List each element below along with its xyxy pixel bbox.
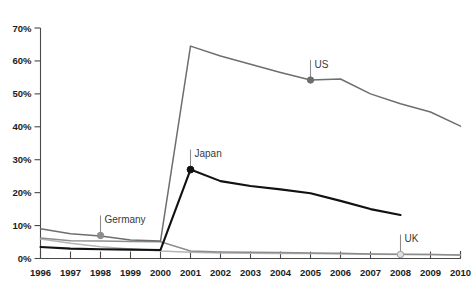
data-point-marker-uk[interactable] <box>397 251 403 257</box>
x-tick-label: 1996 <box>30 267 51 278</box>
y-axis-tick-labels: 0%10%20%30%40%50%60%70% <box>12 23 32 265</box>
y-axis: 0%10%20%30%40%50%60%70% <box>12 23 40 265</box>
x-tick-label: 1998 <box>90 267 111 278</box>
x-tick-label: 2005 <box>300 267 322 278</box>
y-tick-label: 70% <box>12 23 32 34</box>
series-annotations: USJapanGermanyUK <box>97 59 418 258</box>
data-point-marker-us[interactable] <box>307 77 313 83</box>
y-axis-ticks <box>35 28 41 259</box>
x-tick-label: 1999 <box>120 267 141 278</box>
data-point-marker-germany[interactable] <box>97 232 103 238</box>
line-chart: 0%10%20%30%40%50%60%70% 1996199719981999… <box>0 0 471 291</box>
y-tick-label: 20% <box>12 187 32 198</box>
x-tick-label: 2009 <box>420 267 441 278</box>
data-point-marker-japan[interactable] <box>187 166 194 173</box>
y-tick-label: 0% <box>18 253 32 264</box>
y-tick-label: 60% <box>12 55 32 66</box>
series-line-us <box>41 46 461 241</box>
x-tick-label: 2006 <box>330 267 351 278</box>
x-tick-label: 2008 <box>390 267 411 278</box>
series-label-us: US <box>315 59 329 70</box>
y-tick-label: 30% <box>12 154 32 165</box>
x-tick-label: 2010 <box>450 267 471 278</box>
y-tick-label: 10% <box>12 220 32 231</box>
series-label-uk: UK <box>405 233 419 244</box>
x-tick-label: 2007 <box>360 267 381 278</box>
series-label-germany: Germany <box>105 214 146 225</box>
chart-canvas: 0%10%20%30%40%50%60%70% 1996199719981999… <box>0 0 471 291</box>
x-tick-label: 2000 <box>150 267 171 278</box>
x-tick-label: 2001 <box>180 267 202 278</box>
x-tick-label: 2004 <box>270 267 292 278</box>
x-tick-label: 2002 <box>210 267 231 278</box>
y-tick-label: 50% <box>12 88 32 99</box>
y-tick-label: 40% <box>12 121 32 132</box>
x-axis-tick-labels: 1996199719981999200020012002200320042005… <box>30 267 471 278</box>
x-tick-label: 2003 <box>240 267 261 278</box>
series-lines <box>41 46 461 255</box>
x-tick-label: 1997 <box>60 267 81 278</box>
series-line-japan <box>41 170 401 250</box>
series-label-japan: Japan <box>195 148 222 159</box>
